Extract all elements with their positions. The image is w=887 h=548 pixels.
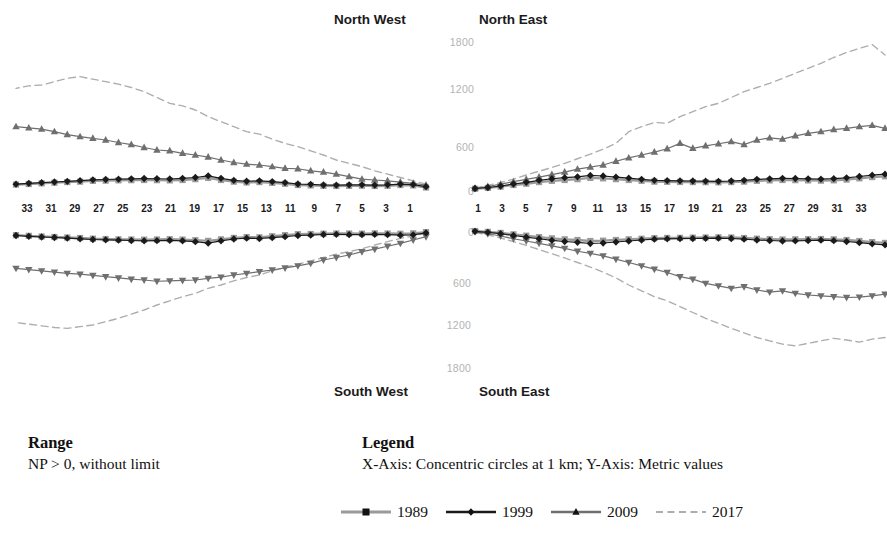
y-tick-1800-south: 1800 [437, 362, 471, 374]
legend-label-1999: 1999 [502, 503, 533, 521]
series-marker-2009 [766, 134, 773, 141]
legend-swatch-1999 [445, 506, 497, 518]
x-tick-east-17: 17 [659, 203, 681, 214]
series-marker-2009 [728, 286, 735, 293]
series-line-2017 [475, 232, 885, 346]
legend-block: Legend X-Axis: Concentric circles at 1 k… [362, 432, 723, 475]
legend-swatch-1989 [340, 506, 392, 518]
plot-north-east [475, 40, 885, 190]
x-tick-west-3: 3 [375, 203, 397, 214]
legend-label-1989: 1989 [397, 503, 428, 521]
series-marker-2009 [153, 279, 160, 286]
y-tick-0-north: 0 [440, 185, 474, 197]
series-marker-2009 [676, 139, 683, 146]
series-marker-2009 [868, 121, 875, 128]
x-tick-west-25: 25 [112, 203, 134, 214]
series-marker-2009 [12, 123, 19, 130]
x-tick-east-19: 19 [682, 203, 704, 214]
x-tick-east-27: 27 [778, 203, 800, 214]
x-tick-west-21: 21 [160, 203, 182, 214]
legend-item-1999[interactable]: 1999 [445, 503, 533, 521]
range-heading: Range [28, 432, 160, 454]
x-tick-west-11: 11 [279, 203, 301, 214]
quadrant-title-south-west: South West [334, 384, 408, 399]
x-tick-west-23: 23 [136, 203, 158, 214]
y-tick-1200-north: 1200 [440, 83, 474, 95]
range-block: Range NP > 0, without limit [28, 432, 160, 475]
x-tick-west-17: 17 [208, 203, 230, 214]
x-tick-east-29: 29 [802, 203, 824, 214]
y-tick-600-north: 600 [440, 141, 474, 153]
x-tick-west-31: 31 [40, 203, 62, 214]
legend-label-2017: 2017 [712, 503, 743, 521]
plot-south-west [16, 230, 426, 380]
x-tick-east-1: 1 [467, 203, 489, 214]
x-tick-west-19: 19 [184, 203, 206, 214]
x-tick-west-15: 15 [231, 203, 253, 214]
x-tick-east-23: 23 [730, 203, 752, 214]
x-tick-east-11: 11 [587, 203, 609, 214]
x-tick-west-7: 7 [327, 203, 349, 214]
legend-swatch-2017 [655, 506, 707, 518]
legend-swatch-2009 [550, 506, 602, 518]
x-tick-west-33: 33 [16, 203, 38, 214]
legend-label-2009: 2009 [607, 503, 638, 521]
x-tick-west-5: 5 [351, 203, 373, 214]
plot-north-west [16, 40, 426, 190]
x-tick-west-9: 9 [303, 203, 325, 214]
plot-south-east [475, 230, 885, 380]
y-tick-1200-south: 1200 [437, 319, 471, 331]
legend-heading: Legend [362, 432, 723, 454]
series-marker-2009 [766, 289, 773, 296]
x-tick-east-25: 25 [754, 203, 776, 214]
y-tick-1800-north: 1800 [440, 36, 474, 48]
series-legend: 1989199920092017 [340, 503, 743, 521]
series-marker-2009 [843, 295, 850, 302]
x-tick-east-31: 31 [826, 203, 848, 214]
x-tick-west-1: 1 [399, 203, 421, 214]
x-tick-east-13: 13 [611, 203, 633, 214]
x-tick-east-33: 33 [850, 203, 872, 214]
x-tick-east-15: 15 [635, 203, 657, 214]
x-tick-east-9: 9 [563, 203, 585, 214]
legend-item-2017[interactable]: 2017 [655, 503, 743, 521]
x-tick-east-7: 7 [539, 203, 561, 214]
quadrant-title-north-east: North East [479, 12, 547, 27]
series-line-2017 [475, 45, 885, 188]
y-tick-600-south: 600 [437, 277, 471, 289]
x-tick-east-3: 3 [491, 203, 513, 214]
x-tick-west-13: 13 [255, 203, 277, 214]
y-tick-0-south: 0 [440, 226, 474, 238]
series-line-2017 [16, 77, 426, 185]
x-tick-east-5: 5 [515, 203, 537, 214]
legend-axis-description: X-Axis: Concentric circles at 1 km; Y-Ax… [362, 454, 723, 475]
quadrant-title-north-west: North West [334, 12, 406, 27]
x-tick-east-21: 21 [706, 203, 728, 214]
range-text: NP > 0, without limit [28, 454, 160, 475]
legend-item-1989[interactable]: 1989 [340, 503, 428, 521]
quadrant-title-south-east: South East [479, 384, 550, 399]
x-tick-west-27: 27 [88, 203, 110, 214]
legend-item-2009[interactable]: 2009 [550, 503, 638, 521]
x-tick-west-29: 29 [64, 203, 86, 214]
series-marker-2009 [728, 138, 735, 145]
